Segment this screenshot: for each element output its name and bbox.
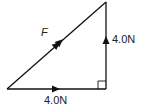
right-angle-marker bbox=[98, 81, 106, 89]
arrow-right-icon bbox=[52, 86, 60, 93]
vertical-label: 4.0N bbox=[112, 33, 135, 45]
horizontal-label: 4.0N bbox=[44, 94, 67, 106]
arrow-up-icon bbox=[103, 36, 110, 44]
resultant-label: F bbox=[41, 26, 49, 38]
vector-triangle-diagram: F 4.0N 4.0N bbox=[0, 0, 143, 110]
